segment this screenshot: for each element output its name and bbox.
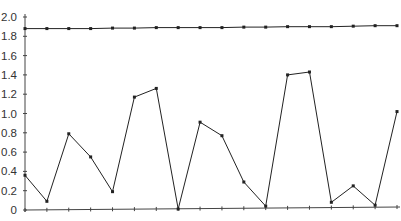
data-point-marker: [264, 205, 267, 208]
data-point-marker: [155, 26, 158, 29]
data-point-marker: [24, 174, 27, 177]
y-tick-label: 1.8: [1, 30, 17, 42]
data-point-marker: [308, 71, 311, 74]
data-point-marker: [111, 27, 114, 30]
y-axis: 00.20.40.60.81.01.21.41.61.82.0: [1, 11, 27, 216]
series-lower: [24, 71, 399, 211]
x-axis-line: [25, 207, 400, 210]
y-tick-label: 2.0: [1, 11, 17, 23]
data-point-marker: [177, 208, 180, 211]
y-tick-label: 1.4: [1, 69, 18, 81]
data-point-marker: [396, 110, 399, 113]
data-point-marker: [396, 24, 399, 27]
data-point-marker: [45, 200, 48, 203]
data-point-marker: [133, 27, 136, 30]
data-point-marker: [374, 24, 377, 27]
data-point-marker: [374, 204, 377, 207]
data-point-marker: [89, 27, 92, 30]
data-point-marker: [133, 96, 136, 99]
series-line: [25, 26, 397, 29]
series-layer: [24, 24, 399, 210]
data-point-marker: [89, 155, 92, 158]
data-point-marker: [67, 132, 70, 135]
y-tick-label: 0.6: [1, 146, 17, 158]
data-point-marker: [155, 87, 158, 90]
data-point-marker: [220, 134, 223, 137]
data-point-marker: [220, 26, 223, 29]
data-point-marker: [286, 25, 289, 28]
line-chart: 00.20.40.60.81.01.21.41.61.82.0: [0, 0, 401, 221]
y-tick-label: 0.8: [1, 127, 17, 139]
data-point-marker: [286, 73, 289, 76]
series-upper: [24, 24, 399, 30]
data-point-marker: [352, 184, 355, 187]
data-point-marker: [308, 25, 311, 28]
data-point-marker: [177, 26, 180, 29]
data-point-marker: [242, 26, 245, 29]
series-line: [25, 72, 397, 209]
y-tick-label: 0.4: [1, 165, 18, 177]
data-point-marker: [264, 26, 267, 29]
data-point-marker: [111, 190, 114, 193]
data-point-marker: [45, 27, 48, 30]
data-point-marker: [330, 25, 333, 28]
x-axis: [25, 205, 400, 212]
data-point-marker: [199, 26, 202, 29]
y-tick-label: 1.2: [1, 88, 17, 100]
data-point-marker: [242, 181, 245, 184]
data-point-marker: [199, 121, 202, 124]
y-tick-label: 1.6: [1, 50, 17, 62]
y-tick-label: 1.0: [1, 108, 17, 120]
data-point-marker: [67, 27, 70, 30]
data-point-marker: [352, 25, 355, 28]
y-tick-label: 0.2: [1, 185, 17, 197]
data-point-marker: [24, 27, 27, 30]
data-point-marker: [330, 201, 333, 204]
y-tick-label: 0: [11, 204, 17, 216]
